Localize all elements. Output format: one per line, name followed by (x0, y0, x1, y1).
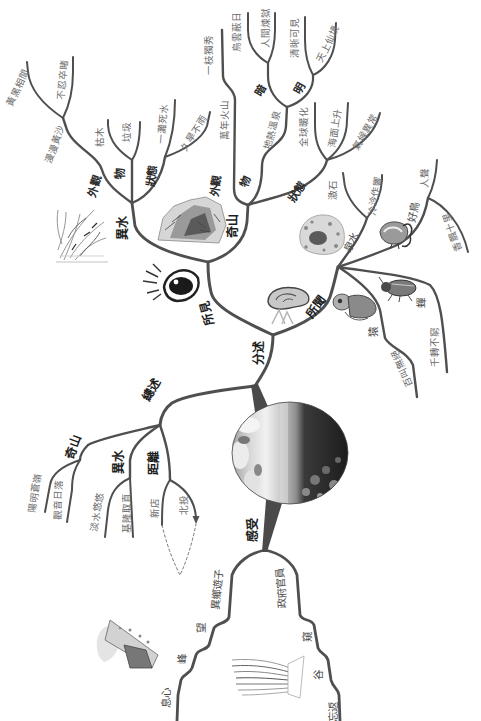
branch-overview (160, 386, 255, 425)
valley-sketch (232, 656, 304, 698)
leaf-text: 一枝獨秀 (204, 35, 214, 75)
trunk-wedge-bottom (262, 500, 283, 552)
arrowhead-icon (193, 516, 200, 524)
cicada-sketch (379, 277, 416, 302)
leaf-text: 人聲 (420, 168, 430, 188)
river-landscape-photo (230, 400, 350, 506)
branch-seen (208, 262, 273, 335)
step-text: 息心 (161, 688, 172, 708)
branch-overview-distance (160, 425, 170, 480)
leaf-text: 枯木 (95, 127, 105, 147)
step-text: 谷 (313, 670, 324, 680)
node-overview-distance: 距離 (148, 451, 160, 475)
leaf-text: 萬年火山 (220, 100, 230, 140)
node-water-state: 狀態 (145, 164, 160, 188)
leaf-text: 人間煉獄 (261, 8, 271, 48)
node-mountain-appearance: 外觀 (209, 174, 224, 198)
leaf-text: 烏雲蔽日 (232, 12, 242, 52)
reeds-sketch (56, 210, 108, 262)
leaf-text: 全球暖化 (299, 107, 309, 147)
node-details: 分述 (253, 341, 265, 365)
step-text: 望 (196, 623, 207, 633)
node-water-objects: 物 (115, 168, 126, 179)
leaf-text: 基隆取直 (122, 493, 132, 533)
leaf-text: 清晰可見 (290, 18, 300, 58)
node-ape: 猿 (368, 327, 379, 337)
node-overview-water: 異水 (113, 450, 125, 474)
leaf-text-destination: 北投 (179, 495, 189, 515)
step-text: 峰 (177, 654, 188, 664)
leaf-text: 千轉不窮 (430, 327, 440, 367)
mountain-map-sketch (97, 620, 158, 668)
leaf-text: 觀音日落 (53, 480, 64, 520)
mind-map-canvas: 總述 奇山 陽明蒼嶺 觀音日落 異水 淡水悠悠 基隆取直 距離 新店 北投 分述… (0, 0, 481, 721)
node-seen-water: 異水 (117, 216, 129, 240)
stream-rocks-sketch (300, 215, 345, 255)
step-text: 窺 (302, 632, 313, 642)
leaf-line (132, 122, 140, 160)
leaf-text: 激石 (328, 180, 338, 200)
branch-dark (268, 63, 287, 107)
mountain-sketch (158, 197, 226, 243)
leaf-line (67, 460, 80, 522)
node-cicada: 蟬 (416, 298, 427, 308)
leaf-line (343, 173, 367, 218)
step-text: 忘返 (328, 702, 339, 721)
leaf-text: 垃圾 (122, 122, 132, 142)
leaf-line (315, 103, 327, 160)
route-dashed-line (162, 524, 196, 575)
mind-map-graphics (0, 0, 481, 721)
sound-waves-icon (272, 310, 293, 324)
leaf-line (162, 480, 170, 525)
ear-icon (268, 288, 309, 324)
monkey-sketch (333, 294, 376, 320)
node-feelings: 感受 (247, 518, 259, 542)
eye-icon (143, 264, 199, 301)
node-seen-mountain: 奇山 (227, 214, 239, 238)
leaf-text-origin: 新店 (150, 498, 160, 518)
leaf-line (305, 17, 313, 75)
